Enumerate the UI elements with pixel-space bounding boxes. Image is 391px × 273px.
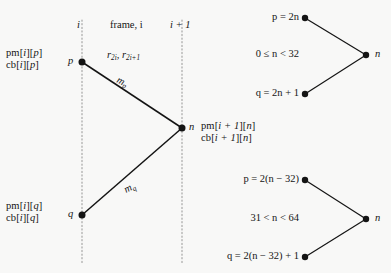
arrays-q-line-cb: cb[i][q]	[6, 212, 42, 224]
arrays-p-pm-index2: p	[33, 47, 38, 58]
upper-tree-root-dot	[363, 52, 369, 58]
arrays-n-line-cb: cb[i + 1][n]	[201, 132, 255, 144]
arrays-p-cb-index1: i	[20, 59, 23, 70]
lower-tree-root-label: n	[375, 212, 380, 224]
arrays-p-block: pm[i][p] cb[i][p]	[6, 47, 42, 72]
edge-p-to-n	[82, 62, 182, 128]
arrays-q-pm-index1: i	[23, 200, 26, 211]
lower-tree-p-equation: p = 2(n − 32)	[185, 173, 299, 185]
arrays-n-line-pm: pm[i + 1][n]	[201, 120, 255, 132]
frame-rate-label: r2i, r2i+1	[107, 49, 140, 62]
arrays-q-line-pm: pm[i][q]	[6, 200, 42, 212]
upper-tree-q-equation: q = 2n + 1	[185, 87, 299, 99]
arrays-n-block: pm[i + 1][n] cb[i + 1][n]	[201, 120, 255, 145]
lower-tree-q-dot	[302, 254, 308, 260]
lower-tree-condition: 31 < n < 64	[195, 212, 299, 224]
diagram-vector-layer	[0, 0, 391, 273]
arrays-n-pm-index1: i + 1	[218, 120, 239, 131]
arrays-q-cb-index1: i	[20, 212, 23, 223]
node-n-label: n	[189, 121, 194, 133]
arrays-n-cb-index2: n	[243, 132, 248, 143]
upper-tree-edge-p	[305, 18, 366, 55]
node-n-dot	[179, 125, 186, 132]
arrays-n-pm-index2: n	[246, 120, 251, 131]
arrays-q-cb-name: cb	[6, 212, 16, 223]
arrays-q-pm-index2: q	[33, 200, 38, 211]
upper-tree-root-label: n	[375, 48, 380, 60]
lower-tree-root-dot	[363, 216, 369, 222]
arrays-n-cb-name: cb	[201, 132, 211, 143]
arrays-p-cb-name: cb	[6, 59, 16, 70]
header-left-boundary: i	[77, 19, 80, 31]
header-frame-caption: frame, i	[110, 19, 143, 31]
arrays-p-cb-index2: p	[30, 59, 35, 70]
upper-tree-condition: 0 ≤ n < 32	[195, 48, 299, 60]
arrays-q-block: pm[i][q] cb[i][q]	[6, 200, 42, 225]
upper-tree-p-dot	[302, 15, 308, 21]
lower-tree-p-dot	[302, 177, 308, 183]
arrays-p-line-cb: cb[i][p]	[6, 59, 42, 71]
upper-tree-q-dot	[302, 91, 308, 97]
arrays-q-pm-name: pm	[6, 200, 20, 211]
edge-q-to-n	[82, 128, 182, 215]
node-p-label: p	[68, 55, 73, 67]
arrays-p-pm-name: pm	[6, 47, 20, 58]
header-right-boundary: i + 1	[170, 19, 191, 31]
arrays-p-line-pm: pm[i][p]	[6, 47, 42, 59]
upper-tree-edge-q	[305, 55, 366, 94]
arrays-p-pm-index1: i	[23, 47, 26, 58]
upper-tree-p-equation: p = 2n	[195, 11, 299, 23]
frame-rate-sub-2: 2i+1	[126, 54, 140, 62]
node-q-label: q	[68, 208, 73, 220]
node-q-dot	[79, 212, 86, 219]
lower-tree-q-equation: q = 2(n − 32) + 1	[175, 250, 299, 262]
arrays-q-cb-index2: q	[30, 212, 35, 223]
lower-tree-edge-p	[305, 180, 366, 219]
lower-tree-edge-q	[305, 219, 366, 257]
arrays-n-cb-index1: i + 1	[215, 132, 236, 143]
node-p-dot	[79, 59, 86, 66]
diagram-canvas: i frame, i i + 1 p q n r2i, r2i+1 mp mq …	[0, 0, 391, 273]
arrays-n-pm-name: pm	[201, 120, 215, 131]
